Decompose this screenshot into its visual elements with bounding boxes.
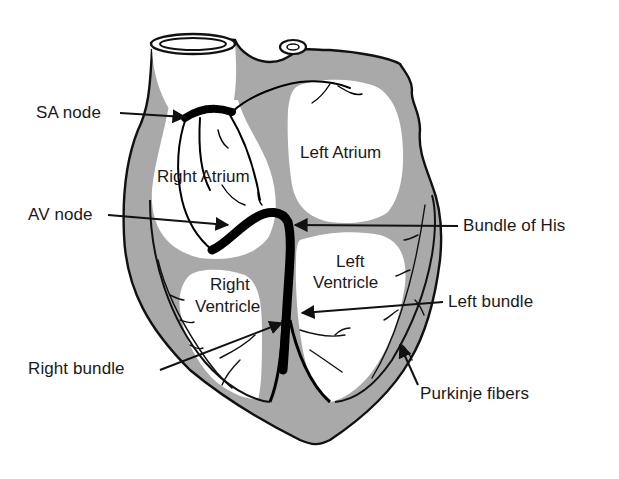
pulmonary-vessel [280, 40, 306, 54]
right-atrium-label: Right Atrium [157, 167, 250, 187]
av-node-label: AV node [28, 206, 93, 223]
heart-diagram: Right Atrium Left Atrium Right Ventricle… [0, 0, 619, 479]
right-bundle-label: Right bundle [28, 360, 125, 377]
left-ventricle-label-line1: Left [336, 252, 364, 272]
heart-illustration [0, 0, 619, 479]
left-bundle-label: Left bundle [448, 293, 533, 310]
left-atrium-label: Left Atrium [300, 143, 381, 163]
right-ventricle-label-line2: Ventricle [195, 297, 260, 317]
right-ventricle-label-line1: Right [210, 275, 250, 295]
bundle-of-his-label: Bundle of His [463, 217, 565, 234]
purkinje-fibers-label: Purkinje fibers [420, 385, 529, 402]
bundle-of-his-pointer [295, 225, 458, 226]
sa-node-label: SA node [36, 104, 101, 121]
left-ventricle-label-line2: Ventricle [313, 273, 378, 293]
